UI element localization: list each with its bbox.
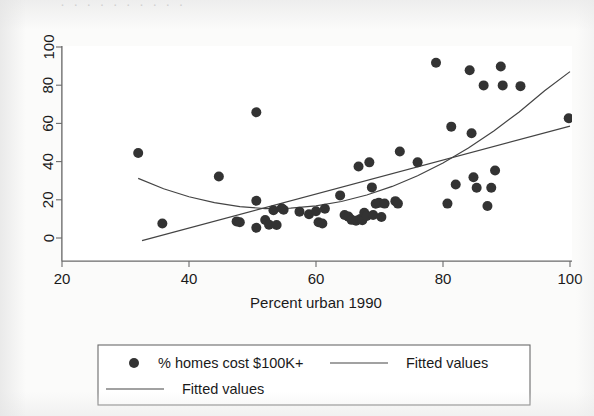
- scatter-point: [446, 122, 456, 132]
- scatter-point: [486, 183, 496, 193]
- scatter-point: [496, 61, 506, 71]
- scatter-point: [564, 113, 574, 123]
- x-tick-label: 60: [308, 270, 325, 287]
- scatter-point: [251, 196, 261, 206]
- scanned-page: · · · · · · · · · · 02040608010020406080…: [0, 0, 594, 416]
- scatter-point: [311, 206, 321, 216]
- scatter-point: [451, 180, 461, 190]
- x-tick-label: 20: [54, 270, 71, 287]
- legend-circle-marker-icon: [129, 358, 139, 368]
- scatter-point: [515, 81, 525, 91]
- scatter-point: [251, 107, 261, 117]
- y-tick-label: 60: [40, 115, 57, 132]
- scatter-point: [335, 190, 345, 200]
- scatter-point: [279, 205, 289, 215]
- y-tick-label: 40: [40, 153, 57, 170]
- scatter-point: [235, 217, 245, 227]
- x-axis-title: Percent urban 1990: [250, 294, 382, 311]
- scatter-point: [133, 148, 143, 158]
- y-tick-label: 100: [40, 34, 57, 59]
- legend-label-fitted-1: Fitted values: [406, 355, 488, 371]
- scatter-point: [380, 199, 390, 209]
- scatter-point: [354, 162, 364, 172]
- scatter-point: [294, 207, 304, 217]
- scatter-point: [479, 80, 489, 90]
- scatter-point: [251, 223, 261, 233]
- legend-label-scatter: % homes cost $100K+: [158, 355, 304, 371]
- scatter-point: [368, 210, 378, 220]
- scatter-point: [395, 146, 405, 156]
- scatter-point: [498, 80, 508, 90]
- scatter-point: [367, 182, 377, 192]
- scatter-point: [467, 128, 477, 138]
- legend-box: [98, 345, 530, 405]
- legend-label-fitted-2: Fitted values: [182, 381, 264, 397]
- y-tick-label: 0: [40, 234, 57, 242]
- scatter-point: [413, 157, 423, 167]
- scatter-point: [468, 172, 478, 182]
- scatter-point: [442, 199, 452, 209]
- x-tick-label: 80: [435, 270, 452, 287]
- chart-svg: 02040608010020406080100Percent urban 199…: [0, 8, 594, 408]
- scatter-point: [393, 199, 403, 209]
- x-tick-label: 100: [557, 270, 582, 287]
- scatter-point: [465, 65, 475, 75]
- scatter-point: [364, 157, 374, 167]
- scatter-point: [431, 58, 441, 68]
- scatter-point: [157, 218, 167, 228]
- scatter-point: [376, 212, 386, 222]
- x-tick-label: 40: [181, 270, 198, 287]
- scatter-point: [272, 220, 282, 230]
- scatter-point: [482, 201, 492, 211]
- scatter-point: [317, 218, 327, 228]
- scatter-point: [214, 171, 224, 181]
- y-tick-label: 80: [40, 77, 57, 94]
- cut-off-caption-sliver: · · · · · · · · · ·: [60, 0, 480, 7]
- scatter-point: [472, 183, 482, 193]
- scatter-point: [320, 204, 330, 214]
- scatter-chart-figure: 02040608010020406080100Percent urban 199…: [0, 8, 594, 408]
- y-tick-label: 20: [40, 191, 57, 208]
- scatter-point: [490, 166, 500, 176]
